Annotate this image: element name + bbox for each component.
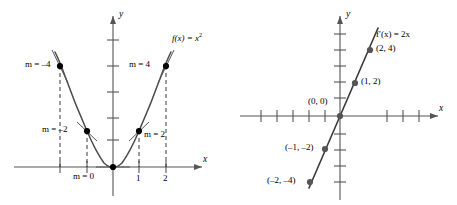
- parabola-graph: [0, 0, 228, 205]
- calculus-derivative-figure: f(x) = x2 m = –4 m = –2 m = 0 m = 2 m = …: [0, 0, 457, 205]
- derivative-function-label: f′(x) = 2x: [376, 30, 410, 39]
- slope-label-m-zero: m = 0: [73, 172, 94, 181]
- y-axis: [337, 16, 343, 200]
- derivative-graph: [228, 0, 457, 205]
- point-label-2-4: (2, 4): [376, 44, 396, 53]
- x-tick-label-2: 2: [163, 174, 168, 183]
- slope-label-m-pos2: m = 2: [144, 130, 165, 139]
- derivative-panel: f′(x) = 2x (2, 4) (1, 2) (0, 0) (–1, –2)…: [228, 0, 457, 205]
- y-axis-label: y: [346, 10, 350, 20]
- parabola-function-label: f(x) = x2: [172, 34, 202, 43]
- point-label-neg1-neg2: (–1, –2): [285, 143, 314, 152]
- y-axis-label: y: [119, 10, 123, 20]
- slope-label-m-pos4: m = 4: [129, 60, 150, 69]
- point-label-1-2: (1, 2): [361, 77, 381, 86]
- slope-label-m-neg2: m = –2: [42, 125, 68, 134]
- x-axis-label: x: [203, 155, 207, 165]
- point-label-0-0: (0, 0): [308, 97, 328, 106]
- x-tick-label-1: 1: [136, 174, 141, 183]
- slope-label-m-neg4: m = –4: [25, 60, 51, 69]
- x-axis-label: x: [439, 104, 443, 114]
- point-label-neg2-neg4: (–2, –4): [267, 176, 296, 185]
- parabola-panel: f(x) = x2 m = –4 m = –2 m = 0 m = 2 m = …: [0, 0, 228, 205]
